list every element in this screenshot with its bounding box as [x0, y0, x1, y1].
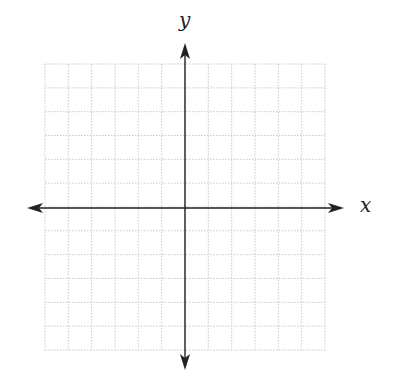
coordinate-plane: x y [0, 0, 399, 391]
x-axis-label: x [360, 195, 371, 215]
coordinate-plane-graphic [0, 0, 399, 391]
axes [27, 43, 344, 370]
y-axis-label: y [179, 10, 190, 30]
